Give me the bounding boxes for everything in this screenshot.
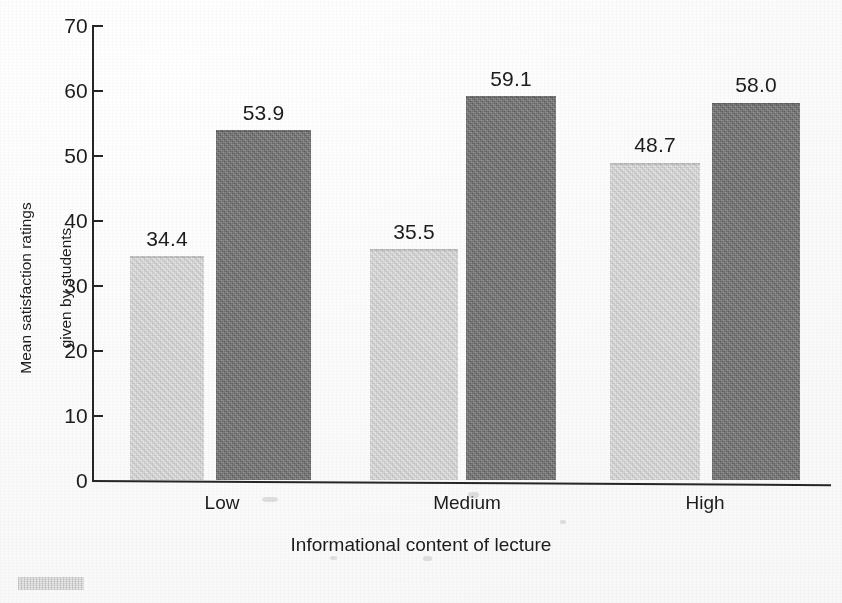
chart-page: 70 60 50 40 30 20 10 0 Mean satisfaction…	[0, 0, 842, 603]
x-tick-label-medium: Medium	[412, 492, 522, 514]
scan-artifact-smudge	[18, 577, 84, 590]
bar-high-light[interactable]	[610, 163, 700, 480]
value-label-medium-light: 35.5	[366, 221, 462, 242]
bar-top-edge	[610, 163, 700, 165]
bar-chart: 70 60 50 40 30 20 10 0 Mean satisfaction…	[0, 0, 842, 603]
bar-fill	[610, 163, 700, 480]
scan-artifact-speck	[560, 520, 566, 524]
bar-top-edge	[712, 103, 800, 105]
value-label-low-light: 34.4	[120, 228, 214, 249]
x-tick-label-high: High	[655, 492, 755, 514]
y-tick-mark-50	[92, 155, 103, 157]
bar-top-edge	[130, 256, 204, 258]
bar-top-edge	[216, 130, 311, 132]
bar-fill	[216, 130, 311, 480]
y-axis-title: Mean satisfaction ratings given by stude…	[0, 158, 96, 418]
bar-medium-light[interactable]	[370, 249, 458, 480]
value-label-high-dark: 58.0	[708, 74, 804, 95]
bar-medium-dark[interactable]	[466, 96, 556, 480]
bar-top-edge	[370, 249, 458, 251]
y-tick-label-60: 60	[42, 80, 88, 101]
bar-fill	[370, 249, 458, 480]
bar-fill	[466, 96, 556, 480]
bar-high-dark[interactable]	[712, 103, 800, 480]
bar-low-dark[interactable]	[216, 130, 311, 480]
value-label-low-dark: 53.9	[216, 102, 311, 123]
scan-artifact-speck	[468, 492, 479, 498]
value-label-high-light: 48.7	[607, 134, 703, 155]
bar-top-edge	[466, 96, 556, 98]
y-tick-label-70: 70	[42, 15, 88, 36]
x-axis-title: Informational content of lecture	[0, 534, 842, 556]
x-tick-label-low: Low	[172, 492, 272, 514]
value-label-medium-dark: 59.1	[463, 68, 559, 89]
y-axis-title-line-2: given by students	[56, 158, 76, 418]
bar-low-light[interactable]	[130, 256, 204, 480]
scan-artifact-speck	[423, 556, 432, 561]
y-tick-mark-60	[92, 90, 103, 92]
y-axis-title-line-1: Mean satisfaction ratings	[16, 158, 36, 418]
y-tick-label-0: 0	[42, 470, 88, 491]
bar-fill	[712, 103, 800, 480]
scan-artifact-speck	[262, 497, 278, 502]
scan-artifact-speck	[330, 556, 337, 560]
y-tick-mark-70	[92, 25, 103, 27]
bar-fill	[130, 256, 204, 480]
